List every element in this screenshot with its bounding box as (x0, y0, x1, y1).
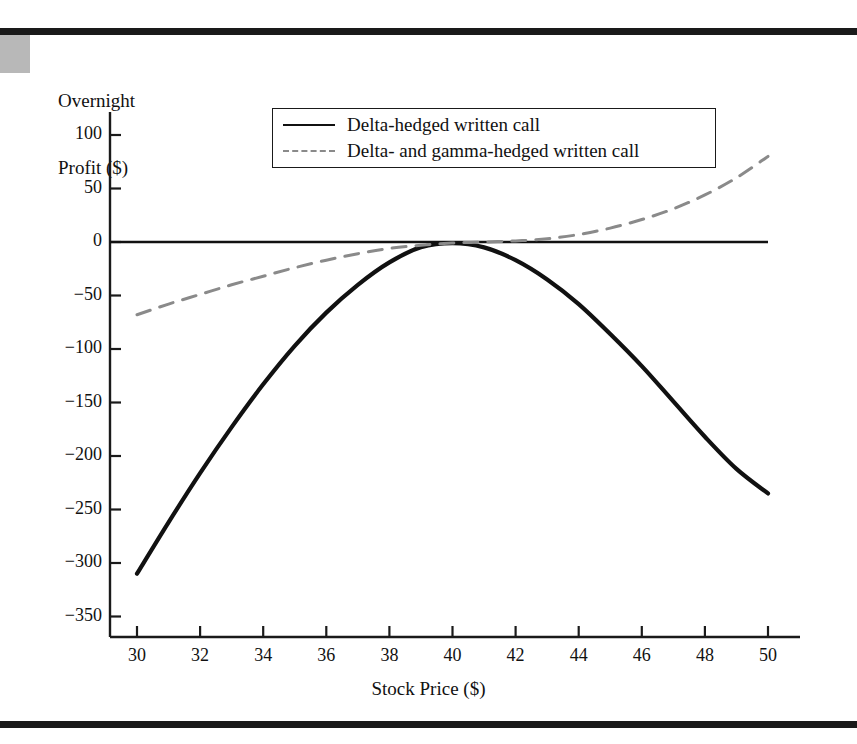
x-tick-label: 44 (554, 645, 604, 666)
x-tick-label: 42 (491, 645, 541, 666)
x-axis-title: Stock Price ($) (0, 678, 857, 700)
legend-label-0: Delta-hedged written call (347, 114, 540, 136)
x-tick-label: 38 (364, 645, 414, 666)
x-tick-label: 36 (301, 645, 351, 666)
legend-line-dashed-icon (283, 144, 335, 158)
page-rule-bottom (0, 721, 857, 728)
x-tick-label: 40 (428, 645, 478, 666)
y-tick-label: −150 (65, 391, 102, 412)
x-tick-label: 30 (112, 645, 162, 666)
x-tick-label: 34 (238, 645, 288, 666)
series-line-0 (137, 243, 768, 574)
y-tick-label: −250 (65, 498, 102, 519)
y-tick-label: −350 (65, 605, 102, 626)
y-tick-label: 0 (93, 230, 102, 251)
x-tick-label: 46 (617, 645, 667, 666)
y-tick-label: −200 (65, 444, 102, 465)
legend-label-1: Delta- and gamma-hedged written call (347, 140, 639, 162)
x-tick-label: 32 (175, 645, 225, 666)
y-tick-label: −300 (65, 551, 102, 572)
y-tick-label: −100 (65, 337, 102, 358)
figure-container: Overnight Profit ($) 100500−50−100−150−2… (0, 0, 857, 744)
series-line-1 (137, 156, 768, 314)
legend-item-delta-gamma-hedged: Delta- and gamma-hedged written call (283, 138, 639, 164)
y-tick-label: 50 (84, 177, 102, 198)
y-tick-label: −50 (74, 284, 102, 305)
chart-legend: Delta-hedged written call Delta- and gam… (272, 108, 716, 168)
x-tick-label: 48 (680, 645, 730, 666)
x-tick-label: 50 (743, 645, 793, 666)
legend-line-solid-icon (283, 118, 335, 132)
y-tick-label: 100 (75, 123, 102, 144)
legend-item-delta-hedged: Delta-hedged written call (283, 112, 540, 138)
